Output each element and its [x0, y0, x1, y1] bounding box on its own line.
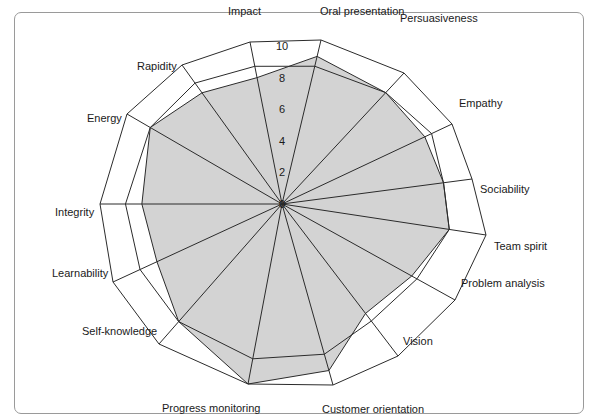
axis-label: Problem analysis — [461, 277, 545, 289]
axis-label: Oral presentation — [320, 5, 404, 17]
tick-label: 0 — [279, 198, 285, 210]
radar-chart: ImpactOral presentationPersuasivenessEmp… — [0, 0, 598, 420]
axis-label: Vision — [403, 335, 433, 347]
axis-label: Impact — [228, 5, 261, 17]
axis-label: Energy — [87, 112, 122, 124]
axis-label: Learnability — [52, 267, 109, 279]
axis-label: Integrity — [55, 206, 95, 218]
axis-label: Self-knowledge — [82, 325, 157, 337]
tick-label: 4 — [279, 135, 285, 147]
axis-label: Customer orientation — [322, 403, 424, 415]
axis-label: Persuasiveness — [400, 12, 478, 24]
tick-label: 2 — [279, 166, 285, 178]
axis-label: Empathy — [459, 97, 503, 109]
axis-label: Team spirit — [494, 240, 547, 252]
axis-label: Sociability — [480, 183, 530, 195]
tick-label: 8 — [279, 72, 285, 84]
axis-label: Rapidity — [137, 60, 177, 72]
tick-label: 10 — [276, 40, 288, 52]
axis-label: Progress monitoring — [162, 402, 260, 414]
tick-label: 6 — [279, 103, 285, 115]
